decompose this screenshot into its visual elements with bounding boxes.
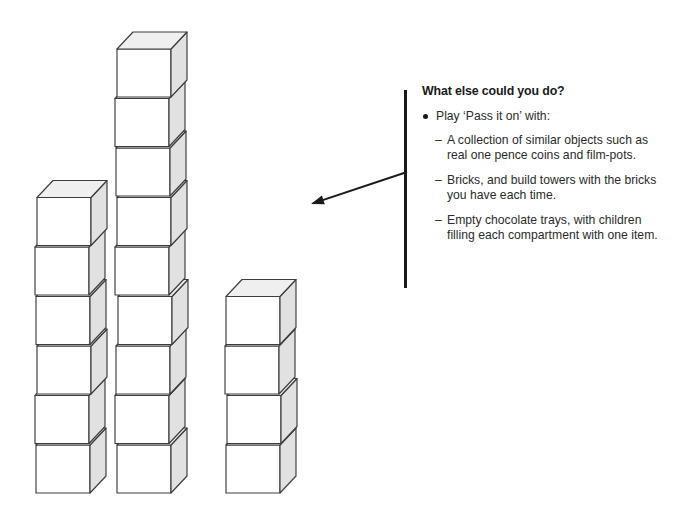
bullet-dot-icon (423, 114, 428, 119)
list-item-label: A collection of similar objects such as … (447, 133, 669, 162)
cube-face-left (35, 247, 89, 295)
cube-face-left (36, 445, 90, 493)
towers-group (35, 32, 297, 493)
cube-face-left (118, 297, 172, 345)
cube-5 (37, 181, 107, 246)
cube-face-left (115, 247, 169, 295)
vertical-rule (404, 90, 407, 288)
cube-face-left (116, 148, 170, 196)
dash-marker-icon: – (435, 133, 442, 148)
cube-face-left (117, 445, 171, 493)
cube-face-left (226, 297, 280, 345)
arrow-head (311, 196, 325, 205)
cube-face-left (115, 99, 169, 147)
arrow-shaft (313, 172, 407, 203)
list-item-label: Bricks, and build towers with the bricks… (447, 173, 669, 202)
cube-face-left (226, 445, 280, 493)
list-item-bullet: Play ‘Pass it on’ with: (422, 109, 669, 124)
cube-face-left (37, 198, 91, 246)
cube-face-left (36, 297, 90, 345)
page-title: What else could you do? (422, 84, 669, 99)
cube-face-left (225, 346, 279, 394)
list-item-label: Empty chocolate trays, with children fil… (447, 213, 669, 242)
list-item-sub: – A collection of similar objects such a… (422, 133, 669, 162)
cube-8 (117, 32, 187, 97)
tower-middle (115, 32, 188, 493)
pointer-arrow (311, 172, 407, 204)
worksheet-page: What else could you do? Play ‘Pass it on… (0, 0, 677, 516)
dash-marker-icon: – (435, 213, 442, 228)
cube-3 (226, 280, 296, 345)
cube-face-left (116, 346, 170, 394)
cube-face-left (227, 396, 281, 444)
panel-body: What else could you do? Play ‘Pass it on… (422, 84, 669, 254)
dash-marker-icon: – (435, 173, 442, 188)
cube-face-left (35, 396, 89, 444)
cube-face-left (117, 198, 171, 246)
tower-left (35, 181, 107, 494)
cube-towers-illustration (0, 0, 677, 516)
cube-face-left (115, 396, 169, 444)
list-item-label: Play ‘Pass it on’ with: (436, 109, 550, 123)
list-item-sub: – Bricks, and build towers with the bric… (422, 173, 669, 202)
tower-right (225, 280, 297, 494)
cube-face-left (117, 49, 171, 97)
list-item-sub: – Empty chocolate trays, with children f… (422, 213, 669, 242)
cube-face-left (37, 346, 91, 394)
